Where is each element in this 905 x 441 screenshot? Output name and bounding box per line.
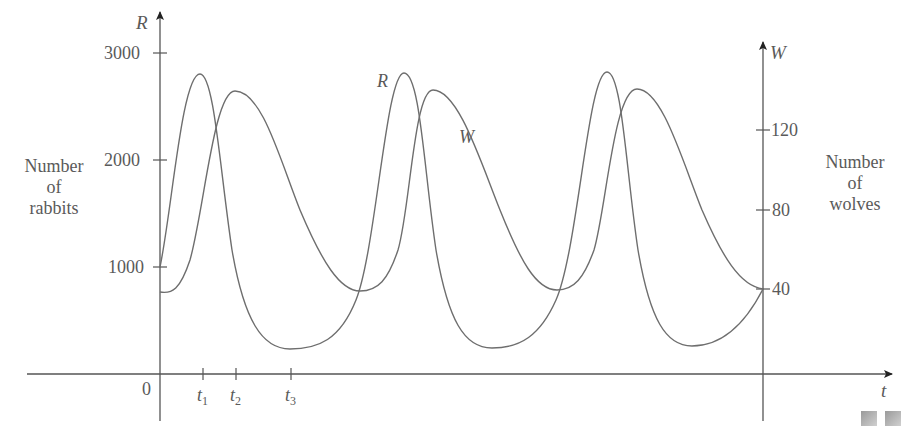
- r-tick-3000: 3000: [104, 44, 140, 62]
- decorative-square-icon: [885, 411, 901, 426]
- left-title-line1: Number: [14, 156, 94, 177]
- t3-label: t3: [285, 386, 296, 407]
- right-axis-title: Number of wolves: [815, 152, 895, 215]
- r-axis-symbol: R: [136, 13, 148, 32]
- t1-label: t1: [197, 386, 208, 407]
- right-title-line2: of: [815, 173, 895, 194]
- w-tick-40: 40: [772, 280, 790, 298]
- right-title-line3: wolves: [815, 194, 895, 215]
- t-axis-symbol: t: [881, 381, 886, 400]
- t2-label: t2: [230, 386, 241, 407]
- t2-sub: 2: [235, 394, 241, 408]
- origin-label: 0: [142, 380, 151, 398]
- decorative-square-icon: [861, 411, 877, 426]
- w-tick-80: 80: [772, 201, 790, 219]
- chart-canvas: [0, 0, 905, 441]
- w-axis-symbol: W: [770, 43, 786, 62]
- t1-sub: 1: [202, 394, 208, 408]
- curve-label-r: R: [377, 72, 388, 90]
- left-axis-title: Number of rabbits: [14, 156, 94, 219]
- r-tick-2000: 2000: [104, 151, 140, 169]
- right-title-line1: Number: [815, 152, 895, 173]
- r-tick-1000: 1000: [108, 258, 144, 276]
- wolf-curve: [160, 89, 763, 292]
- rabbit-curve: [160, 72, 763, 349]
- left-title-line3: rabbits: [14, 198, 94, 219]
- t3-sub: 3: [290, 394, 296, 408]
- curve-label-w: W: [459, 128, 474, 146]
- left-title-line2: of: [14, 177, 94, 198]
- w-tick-120: 120: [771, 121, 798, 139]
